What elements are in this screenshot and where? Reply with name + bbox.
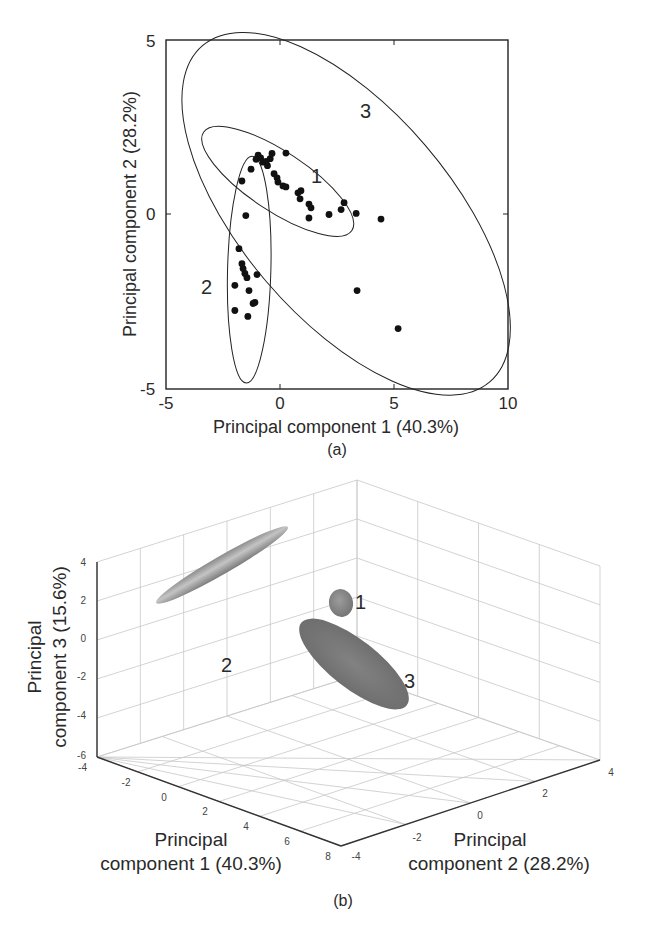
- ellipsoid-1: [327, 587, 355, 619]
- data-point: [306, 215, 313, 222]
- data-point: [378, 216, 385, 223]
- y-tick-label: 0: [146, 205, 155, 224]
- ellipsoid-2: [152, 519, 293, 611]
- data-point: [354, 287, 361, 294]
- data-point: [239, 178, 246, 185]
- data-point: [283, 150, 290, 157]
- svg-text:2: 2: [202, 806, 208, 817]
- ellipsoid-label-2: 2: [221, 654, 232, 676]
- data-point: [242, 212, 249, 219]
- data-point: [338, 206, 345, 213]
- grid-line: [97, 757, 406, 825]
- panel-a-scatter-plot: 1 2 3 5 0 -5 -5 0 5 10 Principal compone…: [120, 0, 569, 458]
- x-axis-label-line2: component 1 (40.3%): [100, 853, 282, 874]
- svg-text:-2: -2: [413, 832, 422, 843]
- plot-frame: [166, 40, 508, 389]
- panel-b-3d-ellipsoid-plot: 1 2 3 4 2 0 -2 -4 -6 -4 -2 0 2 4 6 8 -4 …: [24, 480, 614, 909]
- svg-text:0: 0: [80, 633, 86, 644]
- data-point: [283, 184, 290, 191]
- data-point: [231, 282, 238, 289]
- x-tick-label: 10: [499, 394, 518, 413]
- data-point: [326, 211, 333, 218]
- ellipsoid-label-1: 1: [355, 591, 366, 613]
- x-tick-label: 5: [389, 394, 398, 413]
- data-point: [248, 166, 255, 173]
- svg-text:2: 2: [542, 788, 548, 799]
- data-point: [297, 195, 304, 202]
- cluster-label-3: 3: [360, 100, 371, 122]
- data-point: [231, 307, 238, 314]
- x-axis-label-line1: Principal: [155, 829, 228, 850]
- data-point: [244, 274, 251, 281]
- data-point: [308, 204, 315, 211]
- y-tick-label: 5: [146, 32, 155, 51]
- z-tick-labels: 4 2 0 -2 -4 -6: [77, 557, 86, 761]
- svg-text:-4: -4: [77, 710, 86, 721]
- svg-text:4: 4: [243, 821, 249, 832]
- y-axis-label-line2: component 2 (28.2%): [408, 853, 590, 874]
- svg-text:-6: -6: [77, 750, 86, 761]
- z-axis-label-line1: Principal: [24, 621, 45, 694]
- y-tick-label: -5: [140, 380, 155, 399]
- svg-text:-4: -4: [352, 851, 361, 862]
- data-point: [254, 271, 261, 278]
- ellipsoid-3: [286, 604, 421, 724]
- svg-text:6: 6: [284, 836, 290, 847]
- x-tick-label: -5: [158, 394, 173, 413]
- ellipsoid-label-3: 3: [404, 670, 415, 692]
- figure: 1 2 3 5 0 -5 -5 0 5 10 Principal compone…: [0, 0, 647, 932]
- data-point: [236, 245, 243, 252]
- data-point: [244, 313, 251, 320]
- svg-text:4: 4: [80, 557, 86, 568]
- svg-text:-2: -2: [77, 671, 86, 682]
- data-point: [298, 187, 305, 194]
- data-point: [250, 300, 257, 307]
- cluster-label-2: 2: [201, 276, 212, 298]
- y-axis-label-line1: Principal: [454, 829, 527, 850]
- data-point: [246, 287, 253, 294]
- svg-text:8: 8: [325, 851, 331, 862]
- x-axis-label: Principal component 1 (40.3%): [213, 417, 459, 437]
- svg-text:2: 2: [80, 595, 86, 606]
- data-point: [269, 150, 276, 157]
- svg-text:0: 0: [477, 810, 483, 821]
- y-axis-label: Principal component 2 (28.2%): [120, 91, 140, 337]
- grid-line: [97, 757, 535, 782]
- svg-text:-4: -4: [78, 762, 87, 773]
- panel-caption-b: (b): [333, 892, 353, 909]
- grid-line: [97, 757, 471, 803]
- data-point: [341, 199, 348, 206]
- data-point: [353, 210, 360, 217]
- data-point: [264, 162, 271, 169]
- svg-text:0: 0: [161, 792, 167, 803]
- data-point: [395, 325, 402, 332]
- svg-text:4: 4: [608, 767, 614, 778]
- cluster-label-1: 1: [311, 165, 322, 187]
- z-axis-label-line2: component 3 (15.6%): [49, 566, 70, 748]
- svg-text:-2: -2: [122, 777, 131, 788]
- panel-caption-a: (a): [327, 441, 347, 458]
- x-tick-label: 0: [275, 394, 284, 413]
